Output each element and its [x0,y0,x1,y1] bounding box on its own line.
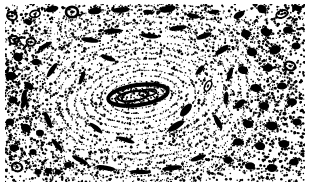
micrograph-figure: Black and white high-contrast micrograph… [0,0,309,189]
haversian-system-micrograph [0,0,309,189]
